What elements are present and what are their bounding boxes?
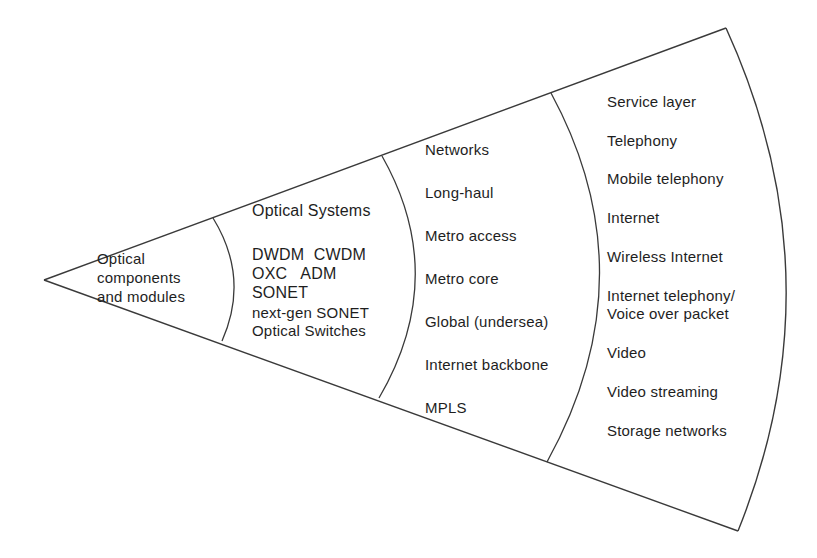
service-item: Storage networks <box>607 422 727 440</box>
service-item: Internet telephony/ <box>607 287 735 305</box>
systems-item: Optical Switches <box>252 322 366 340</box>
boundary-arc-networks <box>547 93 600 462</box>
service-item: Wireless Internet <box>607 248 723 266</box>
service-item: Internet <box>607 209 659 227</box>
components-label-line-2: components <box>97 269 181 287</box>
boundary-arc-components <box>213 218 234 341</box>
systems-item: DWDM CWDM <box>252 246 366 264</box>
networks-item: Internet backbone <box>425 356 549 374</box>
components-label-line-1: Optical <box>97 250 145 268</box>
networks-item: Long-haul <box>425 184 494 202</box>
service-item: Video <box>607 344 646 362</box>
boundary-arc-systems <box>379 156 415 398</box>
networks-item: Metro core <box>425 270 499 288</box>
wedge-top-edge <box>44 28 726 280</box>
service-item: Video streaming <box>607 383 718 401</box>
systems-item: SONET <box>252 284 308 302</box>
service-item: Mobile telephony <box>607 170 724 188</box>
boundary-arc-outer <box>726 28 786 531</box>
service-item: Telephony <box>607 132 677 150</box>
networks-item: Metro access <box>425 227 517 245</box>
networks-item: MPLS <box>425 399 467 417</box>
service-title: Service layer <box>607 93 696 111</box>
components-label-line-3: and modules <box>97 288 185 306</box>
networks-item: Global (undersea) <box>425 313 548 331</box>
systems-item: OXC ADM <box>252 265 336 283</box>
networks-title: Networks <box>425 141 489 159</box>
systems-title: Optical Systems <box>252 202 371 220</box>
systems-item: next-gen SONET <box>252 304 369 322</box>
service-item: Voice over packet <box>607 305 729 323</box>
